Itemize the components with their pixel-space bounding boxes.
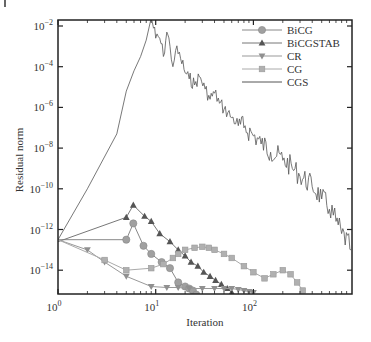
series-cg-marker xyxy=(170,255,176,261)
series-cg-marker xyxy=(175,251,181,257)
series-bicg-marker xyxy=(148,250,155,257)
series-cg-marker xyxy=(271,271,277,277)
legend-label: CR xyxy=(287,50,302,62)
series-cg-marker xyxy=(300,288,306,294)
series-cg-marker xyxy=(148,265,154,271)
series-cr-marker xyxy=(123,274,130,280)
series-bicg-marker xyxy=(123,236,130,243)
series-bicg-marker xyxy=(130,220,137,227)
series-cg-marker xyxy=(102,257,108,263)
series-bicgstab-marker xyxy=(212,277,219,283)
series-cg-marker xyxy=(221,251,227,257)
series-cg-marker xyxy=(288,271,294,277)
y-axis-title: Residual norm xyxy=(13,127,25,192)
series-cg-marker xyxy=(229,255,235,261)
series-bicg-marker xyxy=(166,265,173,272)
series-bicgstab-marker xyxy=(130,201,137,207)
series-bicg-marker xyxy=(140,242,147,249)
y-tick-label: 10−10 xyxy=(29,181,53,195)
legend-item-bicgstab: BiCGSTAB xyxy=(242,37,340,49)
legend-item-cg: CG xyxy=(242,63,302,75)
legend: BiCGBiCGSTABCRCGCGS xyxy=(242,24,340,88)
series-cg-marker xyxy=(280,267,286,273)
legend-label: BiCGSTAB xyxy=(287,37,340,49)
legend-label: CGS xyxy=(287,76,308,88)
residual-norm-chart: 10−210−410−610−810−1010−1210−14100101102… xyxy=(0,0,371,342)
x-tick-label: 100 xyxy=(47,299,62,313)
series-cg-marker xyxy=(192,245,198,251)
legend-label: CG xyxy=(287,63,302,75)
series-cg-marker xyxy=(241,263,247,269)
y-tick-label: 10−6 xyxy=(33,99,53,113)
series-cg-marker xyxy=(182,247,188,253)
series-cg-marker xyxy=(294,280,300,286)
series-cg-marker xyxy=(161,261,167,267)
series-cgs-line xyxy=(58,18,351,250)
y-tick-label: 10−12 xyxy=(29,222,53,236)
legend-cg-marker xyxy=(259,66,265,72)
series-cg-marker xyxy=(206,245,212,251)
series-bicgstab-marker xyxy=(167,238,174,244)
series-bicgstab-marker xyxy=(148,218,155,224)
y-tick-label: 10−2 xyxy=(33,18,53,32)
y-tick-label: 10−4 xyxy=(33,59,53,73)
legend-item-bicg: BiCG xyxy=(242,24,313,36)
x-tick-label: 101 xyxy=(144,299,159,313)
y-tick-label: 10−8 xyxy=(33,140,53,154)
legend-item-cgs: CGS xyxy=(242,76,308,88)
series-cg-marker xyxy=(251,269,257,275)
series-bicgstab-marker xyxy=(123,214,130,220)
series-cg-marker xyxy=(123,267,129,273)
legend-bicg-marker xyxy=(258,26,265,33)
series-cg-marker xyxy=(262,276,268,282)
x-tick-label: 102 xyxy=(242,299,257,313)
plot-frame xyxy=(58,20,352,294)
series-bicgstab-marker xyxy=(207,273,214,279)
series-bicgstab-marker xyxy=(194,263,201,269)
axis-ticks: 10−210−410−610−810−1010−1210−14100101102 xyxy=(29,18,352,313)
legend-item-cr: CR xyxy=(242,50,302,62)
y-tick-label: 10−14 xyxy=(29,262,53,276)
series-layer xyxy=(58,18,351,298)
series-cg-marker xyxy=(200,244,206,250)
legend-label: BiCG xyxy=(287,24,313,36)
x-axis-title: Iteration xyxy=(186,316,224,328)
series-cg-marker xyxy=(212,247,218,253)
